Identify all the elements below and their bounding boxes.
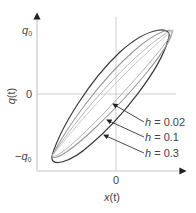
annotation-h-0.1: h = 0.1: [145, 131, 179, 143]
tick-q0: q0: [22, 24, 32, 37]
y-axis-label: q(t): [5, 88, 17, 105]
annotation-h-0.3: h = 0.3: [145, 147, 179, 159]
x-axis-label: x(t): [103, 191, 120, 203]
tick-x-zero: 0: [113, 174, 119, 186]
arrow-h-0.3: [104, 135, 144, 153]
tick-neg-q0: −q0: [15, 150, 32, 163]
hysteresis-diagram: q0 0 −q0 q(t) 0 x(t) h = 0.02 h = 0.1 h …: [0, 0, 196, 213]
annotation-h-0.02: h = 0.02: [145, 116, 185, 128]
arrow-h-0.1: [107, 120, 144, 137]
tick-y-zero: 0: [26, 88, 32, 100]
arrow-h-0.02: [113, 104, 144, 122]
